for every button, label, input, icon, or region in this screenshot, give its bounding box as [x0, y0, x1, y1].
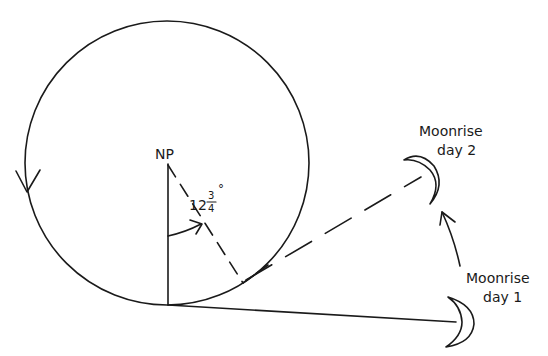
angle-label: 12 3 4 °	[189, 182, 224, 214]
moonrise-day2-label-line2: day 2	[437, 142, 476, 158]
rotated-radius-dashed	[168, 165, 243, 283]
rotation-circle	[25, 21, 309, 305]
crescent-moon-icon	[404, 156, 439, 204]
sightline-day1	[168, 305, 456, 322]
sightline-day2-dashed	[246, 177, 421, 280]
moonrise-diagram: NP 12 3 4 ° Moonrise day 2 Moonrise day …	[0, 0, 548, 356]
north-pole-label: NP	[155, 146, 174, 162]
moonrise-day1-label-line1: Moonrise	[466, 270, 530, 286]
angle-arc-arrow-icon	[168, 220, 202, 236]
angle-numerator: 3	[208, 190, 214, 201]
curved-arrow-up-icon	[440, 212, 460, 266]
angle-denominator: 4	[208, 203, 214, 214]
moonrise-day2-label-line1: Moonrise	[419, 123, 483, 139]
angle-degree: °	[218, 182, 224, 196]
moonrise-day1-label-line2: day 1	[483, 289, 522, 305]
angle-whole: 12	[189, 197, 207, 213]
